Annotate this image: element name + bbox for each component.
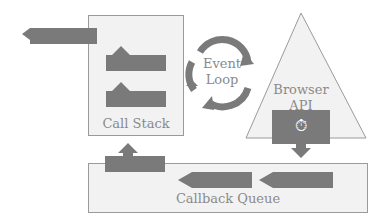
arrow-overlay bbox=[0, 0, 386, 222]
stack-up-arrow-1 bbox=[111, 46, 131, 58]
api-to-queue-arrow bbox=[291, 144, 311, 158]
queue-arrowhead-2 bbox=[259, 172, 273, 188]
queue-to-stack-arrow bbox=[118, 143, 138, 157]
queue-arrowhead-1 bbox=[178, 172, 192, 188]
stack-up-arrow-2 bbox=[111, 82, 131, 94]
